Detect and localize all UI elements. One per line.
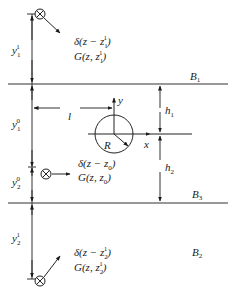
real-source-delta: δ(z − z0) — [78, 157, 116, 172]
arrow-icon — [44, 256, 60, 277]
arrow-icon — [44, 18, 60, 33]
dim-l: l — [34, 108, 112, 122]
boundary-b1-label: B1 — [190, 70, 201, 84]
dim-y1-1-label: y11 — [11, 43, 21, 59]
real-source-green: G(z, z0) — [78, 171, 111, 186]
top-source-delta: δ(z − z11) — [74, 34, 111, 50]
y-axis-label: y — [117, 94, 123, 106]
bottom-source-green: G(z, z21) — [74, 260, 107, 276]
bottom-source-delta: δ(z − z21) — [74, 245, 111, 261]
x-axis-label: x — [143, 138, 149, 150]
bottom-image-source: δ(z − z21) G(z, z21) — [35, 245, 111, 286]
boundary-b1: B1 — [8, 70, 228, 84]
green-function-image-method-diagram: B1 B3 B2 y11 y10 y20 y21 δ(z − z11) — [0, 0, 234, 289]
boundary-b3: B3 — [8, 188, 228, 203]
boundary-b2-label: B2 — [192, 246, 203, 260]
radius-label: R — [103, 139, 111, 151]
dim-h1-label: h1 — [165, 104, 175, 119]
dim-y2-0-label: y20 — [11, 175, 21, 191]
right-dimension-line: h1 — [160, 86, 175, 201]
dim-y1-0-label: y10 — [11, 117, 21, 133]
top-source-green: G(z, z11) — [74, 49, 106, 65]
dim-l-label: l — [68, 110, 71, 122]
left-dimension-line — [27, 14, 37, 279]
real-source: δ(z − z0) G(z, z0) — [41, 157, 116, 186]
circular-inclusion: y x R — [88, 94, 192, 153]
dim-y2-1-label: y21 — [11, 231, 21, 247]
radius-arrow — [114, 134, 128, 146]
dim-h2-label: h2 — [165, 161, 175, 176]
top-image-source: δ(z − z11) G(z, z11) — [35, 9, 111, 65]
boundary-b3-label: B3 — [192, 188, 203, 202]
